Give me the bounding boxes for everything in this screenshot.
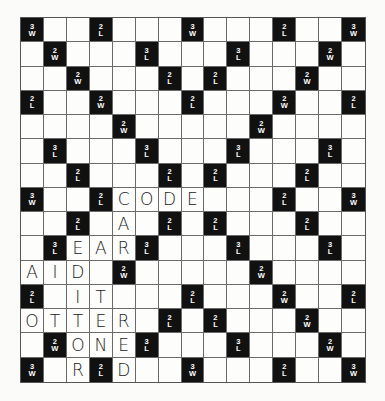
- double-letter-square[interactable]: 2L: [342, 285, 365, 309]
- board-tile[interactable]: A: [113, 212, 136, 236]
- empty-square[interactable]: [90, 164, 113, 188]
- double-letter-square[interactable]: 2L: [273, 18, 296, 42]
- empty-square[interactable]: [250, 18, 273, 42]
- board-tile[interactable]: D: [159, 188, 182, 212]
- empty-square[interactable]: [296, 333, 319, 357]
- empty-square[interactable]: [159, 42, 182, 66]
- triple-word-square[interactable]: 3W: [342, 18, 365, 42]
- empty-square[interactable]: [182, 164, 205, 188]
- empty-square[interactable]: [250, 91, 273, 115]
- empty-square[interactable]: [296, 18, 319, 42]
- empty-square[interactable]: [204, 333, 227, 357]
- empty-square[interactable]: [273, 333, 296, 357]
- double-letter-square[interactable]: 2L: [21, 91, 44, 115]
- double-letter-square[interactable]: 2L: [90, 18, 113, 42]
- empty-square[interactable]: [67, 42, 90, 66]
- empty-square[interactable]: [159, 236, 182, 260]
- empty-square[interactable]: [136, 358, 159, 382]
- triple-word-square[interactable]: 3W: [342, 188, 365, 212]
- empty-square[interactable]: [342, 261, 365, 285]
- empty-square[interactable]: [319, 164, 342, 188]
- empty-square[interactable]: [250, 236, 273, 260]
- empty-square[interactable]: [319, 188, 342, 212]
- empty-square[interactable]: [182, 139, 205, 163]
- empty-square[interactable]: [250, 358, 273, 382]
- board-tile[interactable]: A: [21, 261, 44, 285]
- triple-letter-square[interactable]: 3L: [227, 139, 250, 163]
- triple-letter-square[interactable]: 3L: [227, 42, 250, 66]
- board-tile[interactable]: E: [113, 333, 136, 357]
- double-word-square[interactable]: 2W: [319, 333, 342, 357]
- empty-square[interactable]: [113, 164, 136, 188]
- double-letter-square[interactable]: 2L: [67, 212, 90, 236]
- empty-square[interactable]: [342, 236, 365, 260]
- empty-square[interactable]: [319, 212, 342, 236]
- empty-square[interactable]: [319, 261, 342, 285]
- empty-square[interactable]: [44, 67, 67, 91]
- empty-square[interactable]: [113, 42, 136, 66]
- empty-square[interactable]: [273, 67, 296, 91]
- empty-square[interactable]: [136, 309, 159, 333]
- empty-square[interactable]: [342, 42, 365, 66]
- empty-square[interactable]: [227, 285, 250, 309]
- empty-square[interactable]: [342, 212, 365, 236]
- triple-letter-square[interactable]: 3L: [136, 236, 159, 260]
- empty-square[interactable]: [21, 139, 44, 163]
- empty-square[interactable]: [90, 212, 113, 236]
- empty-square[interactable]: [159, 358, 182, 382]
- empty-square[interactable]: [227, 115, 250, 139]
- empty-square[interactable]: [296, 91, 319, 115]
- empty-square[interactable]: [159, 139, 182, 163]
- board-tile[interactable]: D: [67, 261, 90, 285]
- empty-square[interactable]: [67, 139, 90, 163]
- empty-square[interactable]: [296, 139, 319, 163]
- empty-square[interactable]: [182, 261, 205, 285]
- empty-square[interactable]: [319, 285, 342, 309]
- empty-square[interactable]: [250, 309, 273, 333]
- empty-square[interactable]: [136, 67, 159, 91]
- empty-square[interactable]: [159, 18, 182, 42]
- empty-square[interactable]: [136, 261, 159, 285]
- empty-square[interactable]: [250, 67, 273, 91]
- empty-square[interactable]: [182, 309, 205, 333]
- empty-square[interactable]: [319, 358, 342, 382]
- double-word-square[interactable]: 2W: [44, 333, 67, 357]
- empty-square[interactable]: [44, 285, 67, 309]
- double-letter-square[interactable]: 2L: [90, 188, 113, 212]
- double-letter-square[interactable]: 2L: [296, 164, 319, 188]
- empty-square[interactable]: [182, 333, 205, 357]
- empty-square[interactable]: [44, 188, 67, 212]
- double-letter-square[interactable]: 2L: [67, 164, 90, 188]
- empty-square[interactable]: [319, 18, 342, 42]
- empty-square[interactable]: [319, 309, 342, 333]
- triple-letter-square[interactable]: 3L: [227, 333, 250, 357]
- board-tile[interactable]: E: [90, 309, 113, 333]
- double-letter-square[interactable]: 2L: [159, 212, 182, 236]
- empty-square[interactable]: [182, 212, 205, 236]
- board-tile[interactable]: I: [67, 285, 90, 309]
- empty-square[interactable]: [44, 358, 67, 382]
- board-tile[interactable]: R: [113, 236, 136, 260]
- double-letter-square[interactable]: 2L: [342, 91, 365, 115]
- empty-square[interactable]: [227, 358, 250, 382]
- empty-square[interactable]: [250, 212, 273, 236]
- triple-letter-square[interactable]: 3L: [136, 139, 159, 163]
- empty-square[interactable]: [159, 91, 182, 115]
- empty-square[interactable]: [21, 333, 44, 357]
- empty-square[interactable]: [250, 164, 273, 188]
- triple-letter-square[interactable]: 3L: [136, 42, 159, 66]
- empty-square[interactable]: [113, 18, 136, 42]
- empty-square[interactable]: [227, 67, 250, 91]
- empty-square[interactable]: [136, 91, 159, 115]
- triple-letter-square[interactable]: 3L: [44, 236, 67, 260]
- triple-word-square[interactable]: 3W: [21, 358, 44, 382]
- empty-square[interactable]: [296, 285, 319, 309]
- empty-square[interactable]: [67, 115, 90, 139]
- empty-square[interactable]: [90, 42, 113, 66]
- empty-square[interactable]: [182, 115, 205, 139]
- empty-square[interactable]: [159, 115, 182, 139]
- board-tile[interactable]: R: [113, 309, 136, 333]
- double-word-square[interactable]: 2W: [250, 261, 273, 285]
- double-letter-square[interactable]: 2L: [273, 188, 296, 212]
- empty-square[interactable]: [319, 115, 342, 139]
